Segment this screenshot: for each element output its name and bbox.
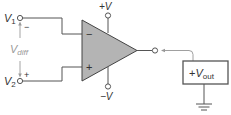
v2-polarity: + [24,70,29,80]
ground [196,84,212,110]
vout-meter: +Vout [183,61,228,84]
positive-supply-label: +V [99,1,113,12]
v1-label: V1 [4,12,16,26]
output [137,48,193,61]
output-terminal [152,48,157,53]
v2-label: V2 [4,75,16,89]
vdiff-label: Vdiff [10,43,29,57]
meter-probe-wire [165,51,193,62]
op-amp-diagram: V1 − V2 + Vdiff +V −V − + [0,0,231,115]
op-amp: − + [82,20,137,81]
negative-supply-label: −V [100,91,114,102]
arrow-up-icon [18,22,22,26]
v1-input: V1 − [4,12,82,34]
v2-wire [23,67,82,81]
v2-terminal [17,78,22,83]
positive-supply: +V [99,1,113,33]
v1-wire [23,18,82,34]
noninverting-input-symbol: + [86,61,92,73]
arrow-left-icon [161,49,165,53]
v1-terminal [17,15,22,20]
negative-supply-terminal [105,84,110,89]
positive-supply-terminal [105,13,110,18]
v1-polarity: − [24,22,29,32]
arrow-down-icon [18,74,22,78]
v2-input: V2 + [4,67,82,89]
negative-supply: −V [100,67,114,102]
inverting-input-symbol: − [86,28,92,40]
